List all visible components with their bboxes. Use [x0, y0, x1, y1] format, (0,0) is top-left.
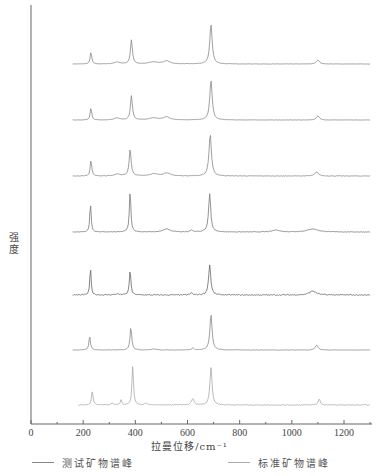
- x-tick-label: 800: [232, 427, 247, 438]
- spectrum-6-line: [73, 315, 370, 350]
- spectrum-3-line: [73, 135, 370, 176]
- x-tick-label: 1200: [334, 427, 354, 438]
- x-ticks: 020040060080010001200: [29, 420, 371, 438]
- legend-line-icon: [228, 462, 250, 463]
- legend-label: 测试矿物谱峰: [62, 455, 134, 470]
- spectrum-7-line: [78, 367, 370, 406]
- spectrum-1-line: [73, 25, 370, 64]
- x-tick-label: 400: [128, 427, 143, 438]
- x-tick-label: 600: [180, 427, 195, 438]
- raman-spectra-chart: 020040060080010001200: [0, 0, 379, 476]
- x-tick-label: 0: [29, 427, 34, 438]
- spectrum-2-line: [73, 81, 370, 120]
- legend-item-standard: 标准矿物谱峰: [228, 455, 330, 470]
- x-tick-label: 200: [76, 427, 91, 438]
- spectrum-4-line: [73, 194, 370, 232]
- spectra-group: [73, 25, 370, 405]
- axes: 020040060080010001200: [29, 5, 373, 438]
- y-axis-title: 强度: [5, 232, 20, 256]
- x-axis-title: 拉曼位移/cm⁻¹: [0, 438, 379, 453]
- legend-line-icon: [32, 462, 54, 463]
- x-tick-label: 1000: [282, 427, 302, 438]
- legend-item-test: 测试矿物谱峰: [32, 455, 134, 470]
- spectrum-5-line: [73, 265, 370, 296]
- legend-label: 标准矿物谱峰: [258, 455, 330, 470]
